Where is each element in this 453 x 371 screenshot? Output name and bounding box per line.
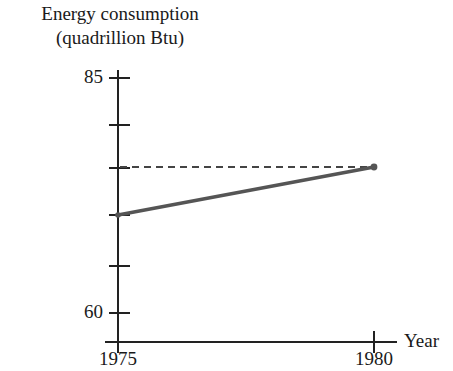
energy-consumption-line-chart: Energy consumption (quadrillion Btu) 85 … bbox=[0, 0, 453, 371]
y-axis-label-60: 60 bbox=[58, 301, 103, 323]
x-axis-title: Year bbox=[404, 330, 439, 352]
x-axis-label-1975: 1975 bbox=[83, 348, 153, 370]
x-axis-label-1980: 1980 bbox=[339, 348, 409, 370]
data-point-1975 bbox=[115, 212, 121, 218]
y-axis-label-85: 85 bbox=[58, 66, 103, 88]
data-line-energy-consumption bbox=[118, 167, 374, 215]
data-point-1980 bbox=[371, 164, 378, 171]
